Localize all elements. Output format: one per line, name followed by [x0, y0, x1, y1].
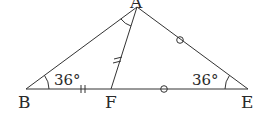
- angle-arc-E: [225, 75, 230, 89]
- segment-AB: [26, 7, 137, 89]
- angle-arc-BAF: [121, 19, 131, 26]
- vertex-label-E: E: [241, 92, 253, 112]
- vertex-label-A: A: [129, 0, 143, 12]
- segment-AF: [111, 7, 137, 89]
- angle-arc-B: [45, 75, 50, 89]
- triangle-diagram: A B F E 36° 36°: [0, 0, 269, 138]
- angle-label-E: 36°: [192, 71, 219, 89]
- angle-label-B: 36°: [54, 71, 81, 89]
- vertex-label-B: B: [18, 92, 31, 112]
- vertex-label-F: F: [105, 92, 117, 112]
